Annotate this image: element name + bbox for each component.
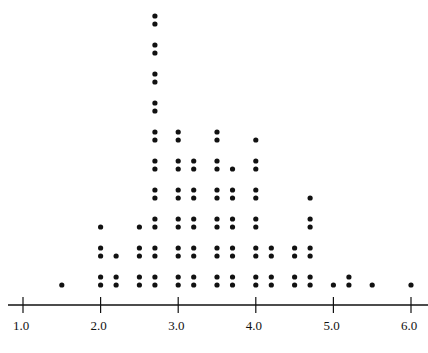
data-dot bbox=[292, 274, 297, 279]
data-dot bbox=[253, 166, 258, 171]
data-dot bbox=[214, 187, 219, 192]
data-dot bbox=[253, 245, 258, 250]
data-dot bbox=[214, 129, 219, 134]
data-dot bbox=[152, 129, 157, 134]
data-dot bbox=[98, 282, 103, 287]
data-dot bbox=[346, 282, 351, 287]
data-dot bbox=[152, 166, 157, 171]
data-dot bbox=[191, 253, 196, 258]
data-dot bbox=[230, 216, 235, 221]
data-dot bbox=[137, 274, 142, 279]
data-dot bbox=[269, 282, 274, 287]
data-dot bbox=[253, 195, 258, 200]
data-dot bbox=[191, 224, 196, 229]
data-dot bbox=[269, 253, 274, 258]
data-dot bbox=[152, 245, 157, 250]
data-dot bbox=[230, 224, 235, 229]
data-dot bbox=[269, 245, 274, 250]
data-dot bbox=[214, 216, 219, 221]
data-dot bbox=[152, 50, 157, 55]
data-dot bbox=[191, 166, 196, 171]
data-dot bbox=[214, 195, 219, 200]
data-dot bbox=[191, 158, 196, 163]
data-dot bbox=[176, 253, 181, 258]
data-dot bbox=[176, 224, 181, 229]
data-dot bbox=[253, 216, 258, 221]
data-dot bbox=[191, 216, 196, 221]
data-dot bbox=[308, 224, 313, 229]
data-dot bbox=[191, 195, 196, 200]
data-dot bbox=[346, 274, 351, 279]
x-tick-label: 6.0 bbox=[401, 318, 417, 334]
data-dot bbox=[176, 216, 181, 221]
data-dot bbox=[152, 224, 157, 229]
data-dot bbox=[152, 195, 157, 200]
data-dot bbox=[253, 137, 258, 142]
x-tick-label: 5.0 bbox=[323, 318, 339, 334]
x-tick-label: 3.0 bbox=[168, 318, 184, 334]
data-dot bbox=[191, 245, 196, 250]
data-dot bbox=[269, 274, 274, 279]
data-dot bbox=[152, 158, 157, 163]
data-dot bbox=[152, 187, 157, 192]
data-dot bbox=[230, 282, 235, 287]
data-dot bbox=[137, 245, 142, 250]
data-dot bbox=[152, 42, 157, 47]
data-dot bbox=[176, 195, 181, 200]
data-dot bbox=[137, 224, 142, 229]
data-dot bbox=[98, 253, 103, 258]
data-dot bbox=[152, 137, 157, 142]
data-dot bbox=[98, 274, 103, 279]
data-dot bbox=[308, 253, 313, 258]
data-dot bbox=[191, 282, 196, 287]
data-dot bbox=[152, 216, 157, 221]
data-dot bbox=[176, 137, 181, 142]
data-dot bbox=[176, 158, 181, 163]
data-dot bbox=[176, 187, 181, 192]
data-dot bbox=[308, 195, 313, 200]
data-dot bbox=[214, 137, 219, 142]
data-dot bbox=[253, 274, 258, 279]
data-dot bbox=[214, 245, 219, 250]
data-dot bbox=[214, 158, 219, 163]
data-dot bbox=[230, 274, 235, 279]
data-dot bbox=[152, 274, 157, 279]
data-dot bbox=[214, 253, 219, 258]
data-dot bbox=[308, 245, 313, 250]
data-dot bbox=[176, 282, 181, 287]
data-dot bbox=[253, 158, 258, 163]
x-tick-label: 2.0 bbox=[91, 318, 107, 334]
data-dot bbox=[308, 274, 313, 279]
data-dot bbox=[176, 129, 181, 134]
data-dot bbox=[176, 274, 181, 279]
data-dot bbox=[152, 71, 157, 76]
data-dot bbox=[253, 187, 258, 192]
data-dot bbox=[253, 224, 258, 229]
data-dot bbox=[176, 166, 181, 171]
x-tick-label: 4.0 bbox=[246, 318, 262, 334]
data-dot bbox=[191, 274, 196, 279]
data-dot bbox=[253, 282, 258, 287]
data-dot bbox=[331, 282, 336, 287]
x-tick-label: 1.0 bbox=[13, 318, 29, 334]
data-dot bbox=[292, 253, 297, 258]
data-dot bbox=[152, 253, 157, 258]
data-dot bbox=[98, 224, 103, 229]
data-dot bbox=[214, 166, 219, 171]
data-dot bbox=[214, 274, 219, 279]
data-dot bbox=[292, 245, 297, 250]
data-dot bbox=[230, 166, 235, 171]
data-dot bbox=[114, 282, 119, 287]
data-dot bbox=[191, 187, 196, 192]
data-dot bbox=[308, 282, 313, 287]
data-dot bbox=[98, 245, 103, 250]
data-dot bbox=[114, 274, 119, 279]
data-dot bbox=[152, 21, 157, 26]
data-dot bbox=[152, 79, 157, 84]
data-dot bbox=[230, 245, 235, 250]
dot-plot bbox=[0, 0, 428, 353]
data-dot bbox=[152, 100, 157, 105]
data-dot bbox=[214, 224, 219, 229]
data-dot bbox=[292, 282, 297, 287]
data-dot bbox=[176, 245, 181, 250]
